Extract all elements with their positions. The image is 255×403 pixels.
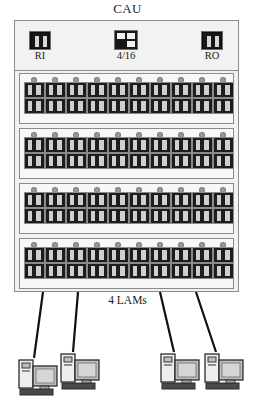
cable-line	[196, 292, 216, 352]
cable-line	[34, 292, 43, 358]
computer-icon	[61, 354, 99, 389]
cable-layer	[0, 0, 255, 403]
cau-network-diagram: CAU RI 4/16 RO	[0, 0, 255, 403]
computer-icon	[19, 360, 57, 395]
workstation[interactable]	[16, 356, 62, 402]
computer-icon	[161, 354, 199, 389]
cable-line	[73, 292, 78, 352]
workstation[interactable]	[58, 350, 104, 396]
computer-icon	[205, 354, 243, 389]
cable-line	[160, 292, 174, 352]
workstation[interactable]	[202, 350, 248, 396]
workstation[interactable]	[158, 350, 204, 396]
